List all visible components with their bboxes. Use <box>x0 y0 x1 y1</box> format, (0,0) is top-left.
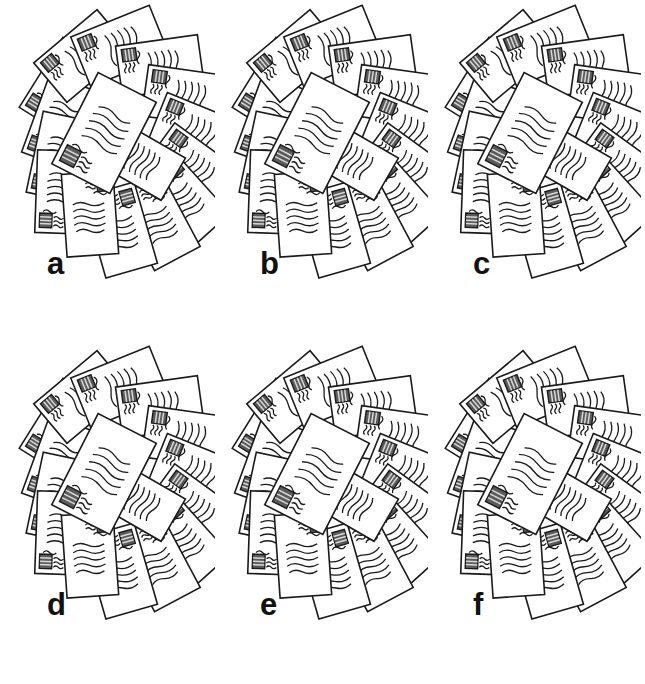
envelope-pile-e <box>213 341 428 631</box>
panel-d: d <box>0 341 215 683</box>
pile-svg-a <box>0 0 215 290</box>
envelope-pile-b <box>213 0 428 290</box>
panel-c: c <box>426 0 641 342</box>
panel-label-d: d <box>47 589 66 620</box>
figure-canvas: abcdef <box>0 0 645 684</box>
envelope-pile-c <box>426 0 641 290</box>
panel-label-f: f <box>473 589 483 620</box>
panel-e: e <box>213 341 428 683</box>
envelope-pile-f <box>426 341 641 631</box>
envelope-pile-a <box>0 0 215 290</box>
panel-f: f <box>426 341 641 683</box>
panel-label-b: b <box>260 248 279 279</box>
pile-svg-d <box>0 341 215 631</box>
pile-svg-b <box>213 0 428 290</box>
panel-label-a: a <box>47 248 64 279</box>
panel-label-c: c <box>473 248 490 279</box>
panel-label-e: e <box>260 589 277 620</box>
pile-svg-f <box>426 341 641 631</box>
envelope-pile-d <box>0 341 215 631</box>
pile-svg-c <box>426 0 641 290</box>
pile-svg-e <box>213 341 428 631</box>
panel-a: a <box>0 0 215 342</box>
panel-b: b <box>213 0 428 342</box>
